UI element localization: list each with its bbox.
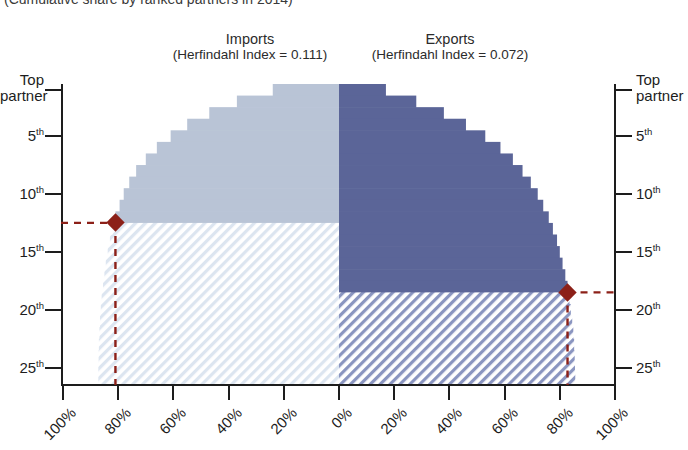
- marker-layer: [0, 0, 678, 450]
- chart-canvas: (Cumulative share by ranked partners in …: [0, 0, 678, 450]
